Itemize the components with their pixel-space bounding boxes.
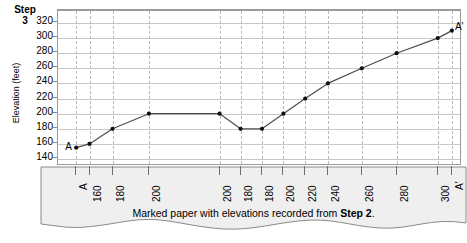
paper-tick-label-200: 200 bbox=[286, 185, 296, 202]
paper-tick-label-260: 260 bbox=[365, 185, 375, 202]
data-point-200 bbox=[218, 112, 222, 116]
paper-tick-label-180: 180 bbox=[116, 185, 126, 202]
paper-tick-label-160: 160 bbox=[93, 185, 103, 202]
data-point-200 bbox=[281, 112, 285, 116]
y-tick-label-200: 200 bbox=[7, 107, 53, 117]
paper-tick-300 bbox=[437, 166, 438, 175]
y-tick-label-160: 160 bbox=[7, 137, 53, 147]
endpoint-label-a: A bbox=[65, 142, 72, 152]
data-point-markers bbox=[74, 29, 454, 150]
paper-tick-label-A: A bbox=[79, 183, 89, 190]
paper-tick-label-240: 240 bbox=[331, 185, 341, 202]
data-point-180 bbox=[260, 127, 264, 131]
paper-tick-180 bbox=[112, 166, 113, 175]
paper-caption: Marked paper with elevations recorded fr… bbox=[40, 207, 467, 219]
paper-tick-200 bbox=[148, 166, 149, 175]
marked-paper-strip: A160180200200180180200220240260280300A' … bbox=[40, 166, 467, 234]
step-word: Step bbox=[2, 4, 48, 15]
data-point-160 bbox=[87, 142, 91, 146]
paper-tick-label-300: 300 bbox=[441, 185, 451, 202]
figure-root: Step 3 Elevation (feet) 3203002802602402… bbox=[0, 0, 467, 243]
caption-prefix: Marked paper with elevations recorded fr… bbox=[132, 207, 340, 219]
data-point-180 bbox=[239, 127, 243, 131]
y-tick-label-280: 280 bbox=[7, 46, 53, 56]
data-point-A' bbox=[450, 29, 454, 33]
paper-tick-label-220: 220 bbox=[308, 185, 318, 202]
paper-tick-160 bbox=[89, 166, 90, 175]
y-tick-label-140: 140 bbox=[7, 152, 53, 162]
paper-tick-A bbox=[75, 166, 76, 175]
paper-tick-260 bbox=[361, 166, 362, 175]
elevation-profile-line bbox=[58, 11, 462, 167]
data-point-220 bbox=[303, 97, 307, 101]
plot-area: A A' bbox=[57, 9, 461, 165]
paper-tick-220 bbox=[304, 166, 305, 175]
y-tick-label-260: 260 bbox=[7, 61, 53, 71]
paper-tick-200 bbox=[219, 166, 220, 175]
y-tick-label-320: 320 bbox=[7, 16, 53, 26]
paper-tick-280 bbox=[396, 166, 397, 175]
y-tick-label-300: 300 bbox=[7, 31, 53, 41]
endpoint-label-a-prime: A' bbox=[455, 22, 464, 32]
paper-tick-240 bbox=[327, 166, 328, 175]
y-tick-label-240: 240 bbox=[7, 76, 53, 86]
data-point-200 bbox=[147, 112, 151, 116]
paper-tick-label-A': A' bbox=[455, 181, 465, 190]
paper-tick-label-200: 200 bbox=[152, 185, 162, 202]
data-point-280 bbox=[395, 51, 399, 55]
y-tick-label-220: 220 bbox=[7, 92, 53, 102]
paper-tick-label-180: 180 bbox=[244, 185, 254, 202]
paper-tick-A' bbox=[451, 166, 452, 175]
data-point-A bbox=[74, 146, 78, 150]
paper-tick-180 bbox=[240, 166, 241, 175]
caption-suffix: . bbox=[372, 207, 375, 219]
paper-tick-label-180: 180 bbox=[265, 185, 275, 202]
y-tick-label-180: 180 bbox=[7, 122, 53, 132]
paper-tick-200 bbox=[282, 166, 283, 175]
data-point-240 bbox=[326, 81, 330, 85]
data-point-300 bbox=[436, 36, 440, 40]
paper-tick-label-200: 200 bbox=[223, 185, 233, 202]
data-point-260 bbox=[360, 66, 364, 70]
paper-tick-180 bbox=[261, 166, 262, 175]
paper-tick-label-280: 280 bbox=[400, 185, 410, 202]
data-point-180 bbox=[110, 127, 114, 131]
caption-step-ref: Step 2 bbox=[340, 207, 372, 219]
